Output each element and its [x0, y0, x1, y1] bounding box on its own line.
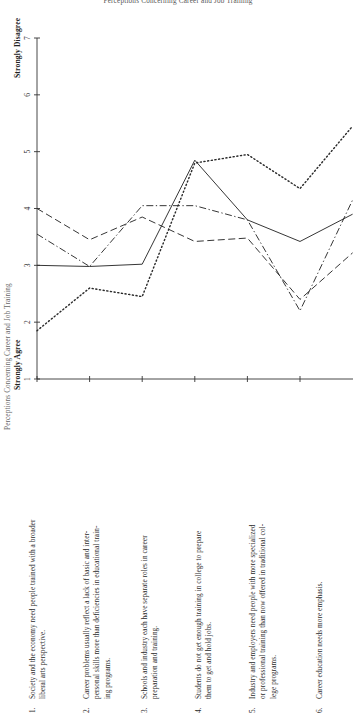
y-axis-tick-label: 2: [23, 320, 32, 324]
y-axis-tick-label: 6: [23, 93, 32, 97]
chart-axes: 1234567: [23, 36, 353, 382]
y-axis-tick-label: 3: [23, 263, 32, 267]
list-item-text: Schools and industry each have separate …: [140, 414, 161, 699]
list-item: 6. Career education needs more emphasis.: [315, 414, 356, 713]
y-axis-tick-labels: 1234567: [23, 36, 32, 381]
list-item-text: Career problems usually reflect a lack o…: [82, 414, 113, 699]
list-item-number: 2.: [82, 699, 92, 713]
y-axis-tick-label: 7: [23, 36, 32, 40]
chart-series-layer: [37, 126, 353, 331]
list-item-text: Students do not get enough training in c…: [194, 414, 215, 699]
list-item-number: 6.: [315, 699, 325, 713]
chart-svg: 1234567: [0, 0, 356, 400]
list-item-number: 1.: [28, 699, 38, 713]
chart-series-line: [37, 209, 353, 300]
list-item-text: Society and the economy need people trai…: [28, 414, 49, 699]
y-axis-tick-label: 1: [23, 377, 32, 381]
y-axis-tick-label: 5: [23, 150, 32, 154]
statement-list: 1. Society and the economy need people t…: [0, 414, 356, 713]
chart-series-line: [37, 160, 353, 266]
list-item-text: Industry and employers need people with …: [248, 414, 279, 699]
y-axis-tick-label: 4: [23, 206, 32, 210]
chart-series-line: [37, 126, 353, 331]
list-item-number: 4.: [194, 699, 204, 713]
list-item-number: 3.: [140, 699, 150, 713]
list-item-number: 5.: [248, 699, 258, 713]
line-chart: 1234567: [0, 0, 356, 400]
list-item-text: Career education needs more emphasis.: [315, 414, 325, 699]
